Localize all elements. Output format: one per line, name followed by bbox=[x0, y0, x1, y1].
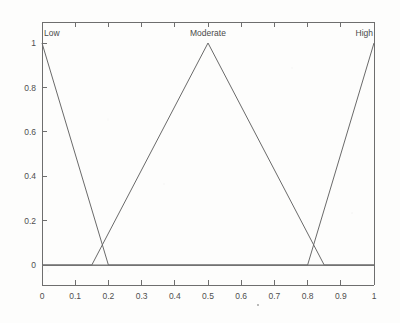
figure-container: 0 0.2 0.4 0.6 0.8 1 0 0.1 0.2 0.3 0.4 0.… bbox=[0, 0, 400, 323]
y-tick-label-0: 0 bbox=[31, 260, 36, 270]
x-tick-label-0-5: 0.5 bbox=[202, 291, 214, 301]
y-tick-label-0-6: 0.6 bbox=[24, 127, 36, 137]
x-axis-top-ticks bbox=[75, 22, 341, 27]
scan-speck bbox=[257, 304, 259, 306]
y-tick-label-0-2: 0.2 bbox=[24, 216, 36, 226]
membership-curve-high bbox=[42, 43, 374, 265]
plot-frame bbox=[42, 22, 374, 285]
x-tick-label-0-6: 0.6 bbox=[235, 291, 247, 301]
x-tick-label-0-4: 0.4 bbox=[169, 291, 181, 301]
membership-curve-low bbox=[42, 43, 374, 265]
membership-label-moderate: Moderate bbox=[190, 28, 226, 38]
x-axis-bottom-ticks bbox=[75, 280, 341, 285]
y-tick-label-1: 1 bbox=[31, 38, 36, 48]
y-tick-label-0-4: 0.4 bbox=[24, 171, 36, 181]
x-tick-label-0-2: 0.2 bbox=[102, 291, 114, 301]
membership-curve-moderate bbox=[42, 43, 374, 265]
x-tick-label-0: 0 bbox=[40, 291, 45, 301]
y-tick-label-0-8: 0.8 bbox=[24, 83, 36, 93]
x-tick-label-1: 1 bbox=[372, 291, 377, 301]
x-tick-label-0-1: 0.1 bbox=[69, 291, 81, 301]
x-tick-label-0-3: 0.3 bbox=[136, 291, 148, 301]
x-tick-label-0-9: 0.9 bbox=[335, 291, 347, 301]
x-tick-label-0-7: 0.7 bbox=[268, 291, 280, 301]
fuzzy-membership-chart: 0 0.2 0.4 0.6 0.8 1 0 0.1 0.2 0.3 0.4 0.… bbox=[0, 0, 400, 323]
y-axis-ticks bbox=[42, 43, 47, 265]
membership-label-low: Low bbox=[44, 28, 60, 38]
x-tick-label-0-8: 0.8 bbox=[302, 291, 314, 301]
membership-label-high: High bbox=[356, 28, 374, 38]
